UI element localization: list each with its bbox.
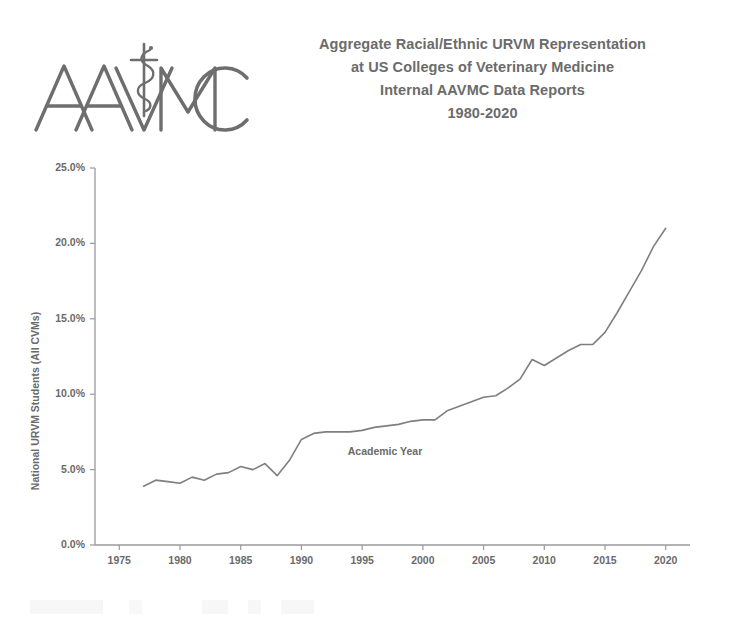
x-tick-label: 1995 bbox=[339, 554, 385, 566]
y-tick-label: 5.0% bbox=[37, 463, 85, 475]
x-tick-marks bbox=[119, 545, 665, 550]
chart-title-line-1: Aggregate Racial/Ethnic URVM Representat… bbox=[255, 33, 710, 56]
chart-title-block: Aggregate Racial/Ethnic URVM Representat… bbox=[255, 33, 710, 125]
y-tick-label: 15.0% bbox=[37, 312, 85, 324]
y-tick-marks bbox=[90, 168, 95, 545]
y-tick-label: 10.0% bbox=[37, 387, 85, 399]
x-tick-label: 1975 bbox=[96, 554, 142, 566]
y-tick-label: 20.0% bbox=[37, 236, 85, 248]
urvm-trend-line bbox=[144, 228, 666, 486]
aavmc-logo bbox=[28, 38, 253, 143]
page-scan-artifact bbox=[30, 600, 360, 614]
x-tick-label: 2010 bbox=[521, 554, 567, 566]
x-tick-label: 2015 bbox=[582, 554, 628, 566]
x-tick-label: 2005 bbox=[461, 554, 507, 566]
y-tick-label: 25.0% bbox=[37, 161, 85, 173]
line-chart-svg bbox=[0, 150, 731, 624]
x-tick-label: 2020 bbox=[643, 554, 689, 566]
x-tick-label: 2000 bbox=[400, 554, 446, 566]
chart-title-line-4: 1980-2020 bbox=[255, 102, 710, 125]
chart-title-line-2: at US Colleges of Veterinary Medicine bbox=[255, 56, 710, 79]
x-tick-label: 1980 bbox=[157, 554, 203, 566]
aavmc-logo-svg bbox=[28, 38, 253, 143]
y-tick-label: 0.0% bbox=[37, 538, 85, 550]
chart-title-line-3: Internal AAVMC Data Reports bbox=[255, 79, 710, 102]
x-tick-label: 1990 bbox=[278, 554, 324, 566]
chart-header: Aggregate Racial/Ethnic URVM Representat… bbox=[0, 0, 731, 150]
x-tick-label: 1985 bbox=[218, 554, 264, 566]
chart-plot-area: National URVM Students (All CVMs) Academ… bbox=[0, 150, 731, 624]
